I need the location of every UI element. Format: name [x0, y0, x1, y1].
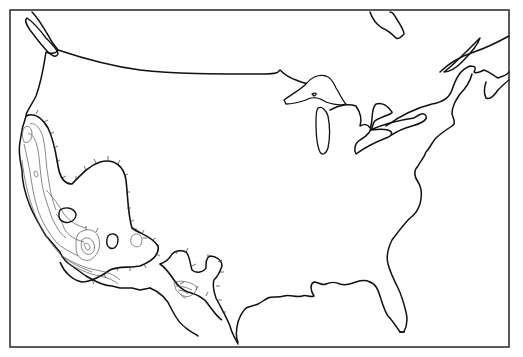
lake-michigan	[316, 107, 330, 154]
map-canvas	[0, 0, 523, 357]
map-frame	[10, 10, 509, 347]
